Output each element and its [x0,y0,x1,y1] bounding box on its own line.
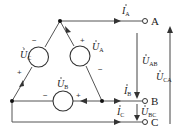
ua-plus: + [80,36,85,45]
ua-label: UA [92,41,104,53]
arrow-edge-b-icon [80,98,87,104]
ub-label: UB [57,78,68,90]
node-bottom-right [100,99,104,103]
terminal-c-icon [143,120,148,125]
arrow-ib-icon [114,98,121,104]
node-top [58,19,62,23]
source-b-icon [53,91,73,111]
uab-label: UAB [142,55,158,67]
terminal-b-label: B [151,95,158,107]
uc-plus: + [17,68,22,77]
ib-label: IB [123,85,131,97]
terminal-b-icon [143,99,148,104]
wire-right-upper [60,21,74,46]
ub-minus: − [43,91,48,100]
ua-minus: − [98,65,103,74]
ub-plus: + [76,91,81,100]
terminal-a-label: A [151,15,159,27]
arrow-ic-icon [114,119,121,125]
terminal-a-icon [143,19,148,24]
wire-left-upper [45,21,60,47]
node-bottom-left [10,99,14,103]
uab-arrowhead-icon [134,92,140,99]
uca-arrowhead-icon [167,26,173,33]
delta-circuit-diagram: A B C UC · − + UA + − UB − + IA IB IC UA… [0,0,179,136]
uc-minus: − [32,36,37,45]
uc-dot: · [22,44,24,51]
arrows [19,18,121,125]
source-c-icon [29,47,49,67]
arrow-edge-a-icon [65,26,71,33]
ic-label: IC [116,106,124,118]
circuit-svg: A B C UC · − + UA + − UB − + IA IB IC UA… [0,0,179,136]
ubc-label: UBC [141,106,156,118]
nodes [10,19,104,103]
source-a-icon [70,46,90,66]
ubc-arrowhead-icon [134,115,140,121]
arrow-ia-icon [114,18,121,24]
ia-label: IA [121,5,130,17]
